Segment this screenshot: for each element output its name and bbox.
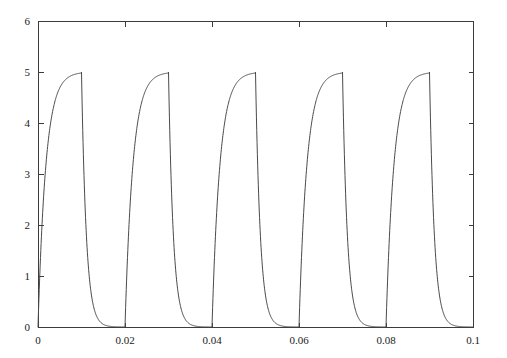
chart-figure: 00.020.040.060.080.10123456 [0, 0, 507, 358]
y-axis-tick-label: 6 [25, 15, 31, 27]
y-axis-tick-label: 1 [25, 270, 31, 282]
y-axis-tick-label: 2 [25, 219, 31, 231]
chart-plot-area: 00.020.040.060.080.10123456 [0, 0, 507, 358]
y-axis-tick-label: 3 [25, 168, 31, 180]
x-axis-tick-label: 0.08 [376, 334, 396, 346]
y-axis-tick-label: 5 [25, 66, 31, 78]
y-axis-tick-label: 4 [25, 117, 31, 129]
x-axis-tick-label: 0.02 [115, 334, 134, 346]
x-axis-tick-label: 0.04 [202, 334, 222, 346]
x-axis-tick-label: 0.1 [466, 334, 480, 346]
y-axis-tick-label: 0 [25, 321, 31, 333]
chart-background [0, 0, 507, 358]
x-axis-tick-label: 0.06 [289, 334, 309, 346]
x-axis-tick-label: 0 [35, 334, 41, 346]
